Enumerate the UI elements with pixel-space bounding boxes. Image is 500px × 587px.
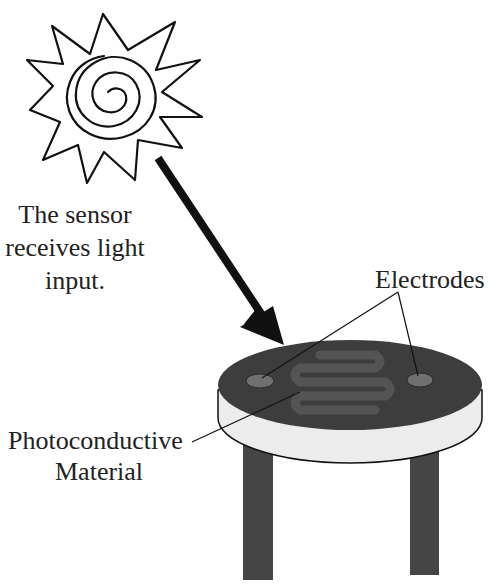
left-electrode bbox=[246, 374, 274, 388]
photo-label-line-1: Photoconductive bbox=[0, 425, 200, 456]
caption-line-1: The sensor bbox=[0, 198, 150, 231]
electrodes-label: Electrodes bbox=[375, 263, 485, 296]
caption-line-3: input. bbox=[0, 264, 150, 297]
arrow-icon bbox=[158, 158, 284, 345]
caption-text: The sensor receives light input. bbox=[0, 198, 150, 297]
photo-label-line-2: Material bbox=[0, 456, 200, 487]
caption-line-2: receives light bbox=[0, 231, 150, 264]
left-leg bbox=[243, 440, 273, 580]
sun-icon bbox=[27, 14, 202, 183]
right-electrode bbox=[407, 373, 433, 387]
photoconductive-material-label: Photoconductive Material bbox=[0, 425, 200, 487]
